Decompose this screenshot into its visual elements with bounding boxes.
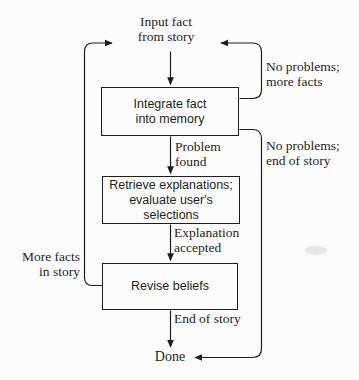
edge-label-no-problems-end-of-story: No problems; end of story (266, 139, 340, 168)
edge-label-explanation-accepted: Explanation accepted (174, 226, 239, 255)
node-integrate-fact: Integrate fact into memory (101, 87, 239, 136)
edge-label-no-problems-end-of-story-line1: No problems; (266, 139, 340, 154)
terminal-input-fact-line1: Input fact (115, 15, 217, 30)
edge-label-no-problems-more-facts: No problems; more facts (266, 60, 340, 89)
edge-label-no-problems-end-of-story-line2: end of story (266, 154, 340, 169)
edge-label-explanation-accepted-line1: Explanation (174, 226, 239, 241)
node-retrieve-explanations-line3: selections (143, 208, 199, 223)
terminal-input-fact: Input fact from story (115, 15, 217, 44)
node-retrieve-explanations-line2: evaluate user's (129, 193, 213, 208)
edge-label-problem-found-line1: Problem (175, 140, 221, 155)
scan-artifact (305, 246, 327, 255)
edge-label-explanation-accepted-line2: accepted (174, 241, 239, 256)
edge-label-no-problems-more-facts-line1: No problems; (266, 60, 340, 75)
node-integrate-fact-line1: Integrate fact (134, 97, 207, 112)
node-retrieve-explanations: Retrieve explanations; evaluate user's s… (102, 176, 240, 224)
edge-label-more-facts-in-story-line2: in story (12, 265, 80, 280)
flowchart: Input fact from story Integrate fact int… (0, 0, 359, 380)
edge-loop-more-facts-in-story (85, 43, 113, 286)
edge-label-problem-found-line2: found (175, 155, 221, 170)
edge-label-more-facts-in-story-line1: More facts (12, 250, 80, 265)
edge-label-no-problems-more-facts-line2: more facts (266, 75, 340, 90)
terminal-input-fact-line2: from story (115, 30, 217, 45)
node-retrieve-explanations-line1: Retrieve explanations; (109, 178, 233, 193)
node-revise-beliefs-label: Revise beliefs (131, 279, 209, 294)
edge-label-problem-found: Problem found (175, 140, 221, 169)
edge-label-more-facts-in-story: More facts in story (12, 250, 80, 279)
node-revise-beliefs: Revise beliefs (102, 263, 238, 310)
terminal-done: Done (138, 349, 202, 365)
edge-label-end-of-story: End of story (174, 312, 241, 327)
node-integrate-fact-line2: into memory (136, 112, 205, 127)
